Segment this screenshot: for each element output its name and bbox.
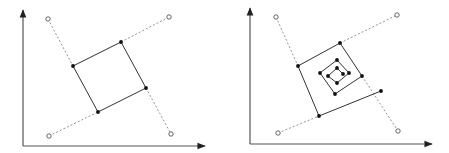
open-point xyxy=(276,131,280,135)
filled-point xyxy=(379,89,383,93)
filled-point xyxy=(335,58,339,62)
filled-point xyxy=(360,74,364,78)
dashed-guide-line xyxy=(362,76,398,131)
filled-point xyxy=(326,74,330,78)
open-point xyxy=(47,134,51,138)
filled-point xyxy=(338,41,342,45)
filled-point xyxy=(96,110,100,114)
filled-point xyxy=(119,40,123,44)
path-polyline xyxy=(73,42,146,112)
filled-point xyxy=(318,71,322,75)
open-point xyxy=(274,15,278,19)
dashed-guide-line xyxy=(278,116,319,133)
dashed-guide-line xyxy=(49,112,98,136)
filled-point xyxy=(335,66,339,70)
filled-point xyxy=(335,81,339,85)
dashed-guide-line xyxy=(340,15,397,43)
right-panel xyxy=(250,8,432,144)
left-panel xyxy=(23,10,205,146)
open-point xyxy=(167,15,171,19)
open-point xyxy=(395,13,399,17)
filled-point xyxy=(347,71,351,75)
dashed-guide-line xyxy=(48,19,73,66)
filled-point xyxy=(317,114,321,118)
diagram-canvas xyxy=(0,0,449,153)
filled-point xyxy=(71,64,75,68)
open-point xyxy=(396,129,400,133)
filled-point xyxy=(296,64,300,68)
dashed-guide-line xyxy=(146,88,171,134)
path-polyline xyxy=(298,43,381,116)
open-point xyxy=(46,17,50,21)
dashed-guide-line xyxy=(121,17,169,42)
filled-point xyxy=(144,86,148,90)
filled-point xyxy=(333,92,337,96)
dashed-guide-line xyxy=(276,17,298,66)
filled-point xyxy=(341,72,345,76)
open-point xyxy=(169,132,173,136)
